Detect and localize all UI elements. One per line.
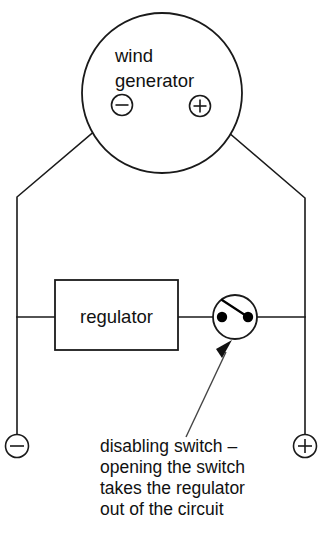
generator-body bbox=[82, 13, 242, 173]
caption-line-2: opening the switch bbox=[100, 457, 245, 477]
caption-line-1: disabling switch – bbox=[100, 436, 237, 456]
negative-wire bbox=[17, 113, 116, 435]
caption-line-3: takes the regulator bbox=[100, 478, 245, 498]
switch-callout-arrow bbox=[186, 340, 232, 437]
regulator-label: regulator bbox=[80, 306, 153, 327]
diagram-canvas: wind generator regulator bbox=[0, 0, 321, 536]
generator-label-line1: wind bbox=[114, 45, 153, 66]
generator-positive-terminal bbox=[190, 96, 211, 117]
generator-label-line2: generator bbox=[115, 70, 194, 91]
switch-contact-left bbox=[217, 312, 227, 322]
output-positive-terminal bbox=[294, 435, 317, 458]
circuit-diagram: wind generator regulator bbox=[0, 0, 321, 536]
output-negative-terminal bbox=[6, 435, 29, 458]
positive-wire bbox=[207, 114, 305, 435]
caption-line-4: out of the circuit bbox=[100, 499, 224, 519]
disabling-switch[interactable] bbox=[213, 295, 257, 339]
generator-negative-terminal bbox=[112, 95, 133, 116]
